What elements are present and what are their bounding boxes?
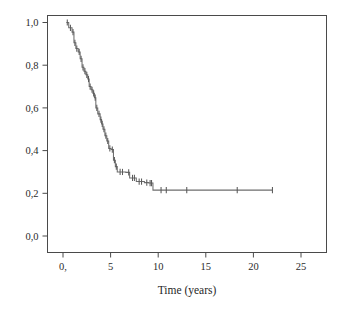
survival-curve-figure: 0,00,20,40,60,81,0 0,510152025 Time (yea… bbox=[0, 0, 349, 309]
x-tick-label: 10 bbox=[153, 261, 164, 272]
kaplan-meier-chart: 0,00,20,40,60,81,0 0,510152025 Time (yea… bbox=[0, 0, 349, 309]
y-tick-label: 1,0 bbox=[25, 17, 38, 28]
y-axis-tick-labels: 0,00,20,40,60,81,0 bbox=[25, 17, 39, 242]
x-tick-label: 25 bbox=[296, 261, 307, 272]
x-axis-tick-labels: 0,510152025 bbox=[59, 261, 306, 272]
x-axis-ticks bbox=[63, 253, 301, 258]
x-tick-label: 20 bbox=[248, 261, 259, 272]
y-tick-label: 0,4 bbox=[25, 145, 39, 156]
x-tick-label: 0, bbox=[59, 261, 67, 272]
x-axis-title: Time (years) bbox=[158, 284, 217, 297]
x-tick-label: 15 bbox=[201, 261, 212, 272]
y-tick-label: 0,6 bbox=[25, 103, 38, 114]
y-tick-label: 0,8 bbox=[25, 60, 38, 71]
y-axis-ticks bbox=[43, 23, 48, 237]
y-tick-label: 0,2 bbox=[25, 188, 38, 199]
y-tick-label: 0,0 bbox=[25, 231, 38, 242]
survival-curve-series bbox=[66, 19, 272, 193]
x-tick-label: 5 bbox=[108, 261, 113, 272]
plot-frame bbox=[48, 16, 327, 253]
censor-tick-marks bbox=[67, 19, 272, 193]
